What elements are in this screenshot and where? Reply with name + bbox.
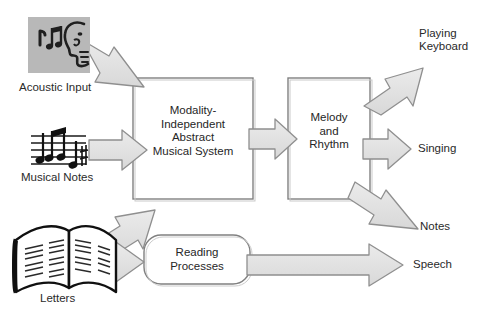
output-label-playing-keyboard: Playing Keyboard <box>419 27 468 53</box>
process-label-mias-line-1: Independent <box>133 118 253 132</box>
input-label-musical-notes: Musical Notes <box>21 171 93 184</box>
input-label-acoustic: Acoustic Input <box>19 81 91 94</box>
output-label-speech: Speech <box>413 258 452 271</box>
output-label-notes: Notes <box>420 220 450 233</box>
output-label-playing-keyboard-line-0: Playing <box>419 27 468 40</box>
process-label-mias-line-3: Musical System <box>133 145 253 159</box>
process-label-melody-line-1: and <box>288 125 370 139</box>
arrow-melody-to-notes <box>348 182 418 229</box>
arrow-melody-to-playing-keyboard <box>364 68 423 115</box>
process-label-mias-line-2: Abstract <box>133 131 253 145</box>
process-label-mias: Modality- Independent Abstract Musical S… <box>133 104 253 158</box>
process-label-mias-line-0: Modality- <box>133 104 253 118</box>
arrow-acoustic-to-mias <box>82 40 144 87</box>
diagram-canvas: Modality- Independent Abstract Musical S… <box>0 0 480 320</box>
process-label-melody-line-2: Rhythm <box>288 138 370 152</box>
arrow-reading-to-speech <box>247 244 403 286</box>
music-staff-icon <box>31 127 88 170</box>
process-label-reading: Reading Processes <box>144 246 250 273</box>
process-label-melody-line-0: Melody <box>288 111 370 125</box>
output-label-singing: Singing <box>418 142 456 155</box>
open-book-icon <box>15 226 117 292</box>
face-listening-music-icon <box>28 17 90 73</box>
input-label-letters: Letters <box>40 292 75 305</box>
output-label-playing-keyboard-line-1: Keyboard <box>419 40 468 53</box>
process-label-melody-rhythm: Melody and Rhythm <box>288 111 370 152</box>
process-label-reading-line-1: Processes <box>144 260 250 274</box>
process-label-reading-line-0: Reading <box>144 246 250 260</box>
